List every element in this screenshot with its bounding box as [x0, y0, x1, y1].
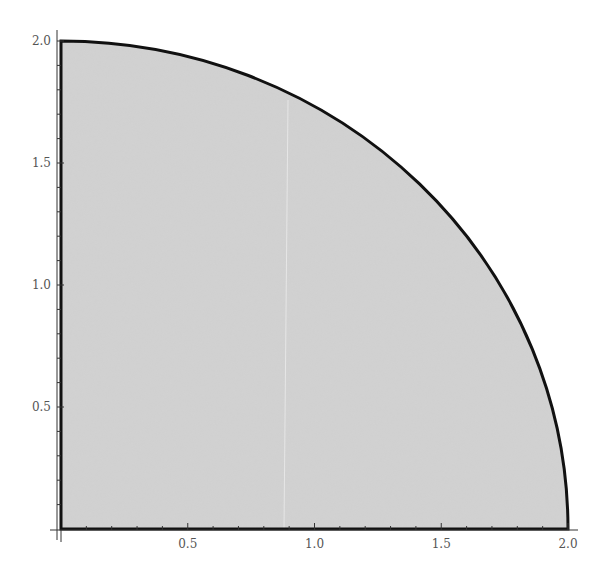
quarter-disk-region [61, 41, 568, 529]
y-tick-label: 1.0 [32, 278, 51, 292]
x-tick-label: 0.5 [178, 537, 197, 551]
x-tick-label: 1.5 [432, 537, 451, 551]
y-tick-label: 0.5 [32, 400, 51, 414]
quarter-disk-chart: 0.51.01.52.0 0.51.01.52.0 [0, 0, 604, 580]
x-tick-label: 2.0 [558, 537, 577, 551]
y-axis-tick-labels: 0.51.01.52.0 [32, 34, 51, 414]
y-axis: 0.51.01.52.0 [32, 30, 64, 540]
x-axis-tick-labels: 0.51.01.52.0 [178, 537, 577, 551]
x-tick-label: 1.0 [305, 537, 324, 551]
y-tick-label: 1.5 [32, 156, 51, 170]
y-tick-label: 2.0 [32, 34, 51, 48]
